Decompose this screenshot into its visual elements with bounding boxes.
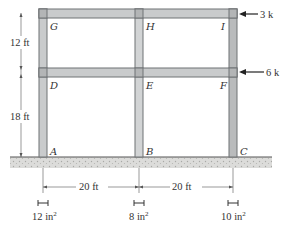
load-3k-label: 3 k xyxy=(260,9,274,20)
joint-D: D xyxy=(49,80,58,91)
column-areas: 12 in2 8 in2 10 in2 xyxy=(32,200,246,222)
span-dimensions: 20 ft 20 ft xyxy=(43,168,233,193)
span-left: 20 ft xyxy=(79,181,99,192)
load-3k: 3 k xyxy=(239,9,274,20)
joint-G: G xyxy=(50,21,58,32)
columns xyxy=(39,9,237,157)
ground xyxy=(10,157,272,168)
joint-F: F xyxy=(219,80,228,91)
area-marker-A: 12 in2 xyxy=(32,200,57,222)
column-B-E-H xyxy=(135,9,143,157)
span-right: 20 ft xyxy=(172,181,192,192)
column-C-F-I xyxy=(229,9,237,157)
height-lower: 18 ft xyxy=(10,111,30,122)
joint-I: I xyxy=(220,21,226,32)
area-marker-C: 10 in2 xyxy=(221,200,246,222)
column-A-D-G xyxy=(39,9,47,157)
height-upper: 12 ft xyxy=(10,37,30,48)
joint-H: H xyxy=(145,21,155,32)
svg-text:10 in2: 10 in2 xyxy=(221,210,246,222)
joint-E: E xyxy=(145,80,154,91)
arrow-left-icon xyxy=(239,11,246,17)
load-6k-label: 6 k xyxy=(266,67,280,78)
arrow-left-icon xyxy=(239,69,246,75)
joint-C: C xyxy=(240,146,248,157)
joint-labels: G H I D E F A B C xyxy=(49,21,248,157)
joint-B: B xyxy=(145,146,153,157)
load-6k: 6 k xyxy=(239,67,280,78)
area-marker-B: 8 in2 xyxy=(129,200,149,222)
joint-A: A xyxy=(49,146,57,157)
frame-diagram: G H I D E F A B C 3 k 6 k 12 ft 18 ft xyxy=(0,0,288,228)
svg-text:8 in2: 8 in2 xyxy=(129,210,149,222)
height-dimensions: 12 ft 18 ft xyxy=(8,13,36,157)
svg-text:12 in2: 12 in2 xyxy=(32,210,57,222)
